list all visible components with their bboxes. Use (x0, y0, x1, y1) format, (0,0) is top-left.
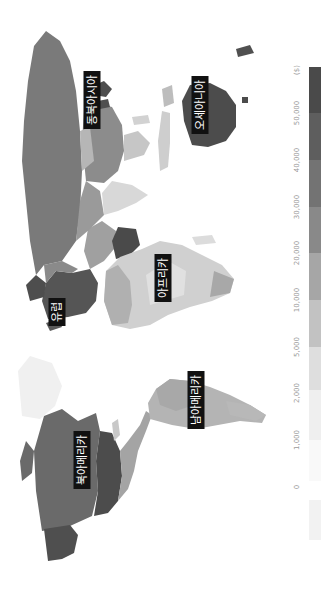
region-label-northeast-asia: 동북아시아 (84, 71, 101, 129)
region-southeast-asia[interactable] (124, 131, 150, 161)
region-canada-islands (20, 441, 34, 481)
region-madagascar (192, 235, 216, 245)
region-scandinavia[interactable] (26, 275, 46, 301)
region-tasmania (242, 97, 248, 103)
region-philippines (132, 115, 150, 125)
region-label-oceania: 오세아니아 (192, 76, 209, 134)
region-indonesia[interactable] (158, 111, 170, 171)
region-australia[interactable] (182, 83, 236, 147)
region-mexico-central-america[interactable] (118, 411, 152, 501)
region-alaska[interactable] (44, 525, 78, 561)
world-map-stage: 동북아시아 오세아니아 유럽 아프리카 북아메리카 남아메리카 ($) 50,0… (0, 0, 334, 601)
region-label-south-america: 남아메리카 (188, 371, 205, 429)
region-label-europe: 유럽 (49, 298, 66, 326)
region-label-north-america: 북아메리카 (74, 431, 91, 489)
region-russia[interactable] (22, 31, 82, 275)
region-label-africa: 아프리카 (155, 254, 172, 302)
region-new-zealand[interactable] (236, 45, 254, 57)
region-india[interactable] (102, 181, 148, 215)
region-papua (162, 85, 174, 107)
region-greenland[interactable] (18, 356, 62, 419)
